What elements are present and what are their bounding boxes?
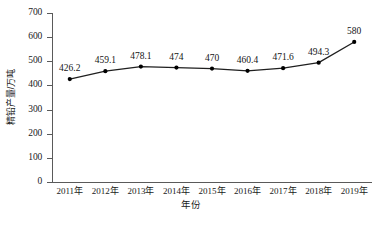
data-point-marker — [103, 69, 107, 73]
data-point-marker — [139, 64, 143, 68]
data-point-marker — [174, 65, 178, 69]
data-point-marker — [68, 77, 72, 81]
data-point-marker — [281, 66, 285, 70]
data-point-marker — [245, 69, 249, 73]
figure-caption — [0, 221, 382, 227]
line-chart: 0100200300400500600700 精铅产量/万吨 年份 2011年2… — [0, 0, 382, 227]
data-point-marker — [210, 66, 214, 70]
data-series-layer — [0, 0, 382, 227]
data-point-label: 494.3 — [296, 47, 342, 57]
data-point-marker — [352, 40, 356, 44]
data-point-marker — [317, 61, 321, 65]
data-point-label: 580 — [331, 26, 377, 36]
